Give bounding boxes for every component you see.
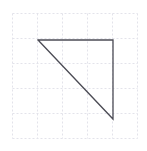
- diagram-canvas: [0, 0, 147, 151]
- canvas-background: [0, 0, 147, 151]
- right-triangle-figure: [0, 0, 147, 151]
